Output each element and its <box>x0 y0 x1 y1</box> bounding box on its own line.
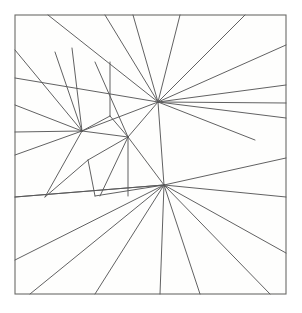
figure-root <box>0 0 302 313</box>
hub-vertex-hub-lower-center <box>163 184 165 186</box>
hub-vertex-hub-middle <box>127 136 129 138</box>
line-arrangement-diagram <box>0 0 302 313</box>
hub-vertex-hub-upper-right <box>157 101 159 103</box>
diagram-frame <box>15 15 286 294</box>
hub-vertex-hub-left <box>81 130 83 132</box>
